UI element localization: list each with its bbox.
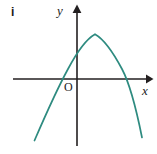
figure-container: i y x O xyxy=(0,0,157,154)
graph-canvas xyxy=(0,0,157,154)
x-axis-label: x xyxy=(142,84,148,97)
part-label: i xyxy=(11,6,14,18)
y-axis-label: y xyxy=(57,4,63,17)
parabola-curve xyxy=(35,34,143,140)
origin-label: O xyxy=(64,81,73,93)
y-axis-arrowhead-icon xyxy=(73,5,82,14)
